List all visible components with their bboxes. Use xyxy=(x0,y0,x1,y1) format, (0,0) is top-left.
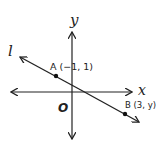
x-axis-label: x xyxy=(138,82,146,98)
point-b xyxy=(123,112,127,116)
point-a-label: A (−1, 1) xyxy=(50,61,93,72)
origin-label: O xyxy=(58,101,68,115)
line-label: l xyxy=(8,42,13,60)
point-a xyxy=(54,74,58,78)
y-axis-label: y xyxy=(69,11,79,29)
point-b-label: B (3, y) xyxy=(125,100,156,110)
coordinate-diagram: y x l O A (−1, 1) B (3, y) xyxy=(0,0,163,148)
